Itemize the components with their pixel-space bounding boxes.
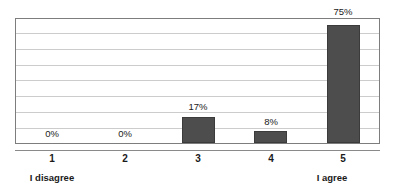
gridline-50 (16, 65, 379, 66)
gridline-40 (16, 80, 379, 81)
bar-slot-3 (182, 117, 215, 143)
bar-slot-5 (327, 25, 360, 143)
bar-category-3[interactable] (182, 117, 215, 143)
value-label-category-2: 0% (95, 129, 155, 139)
x-tick-label-5: 5 (313, 153, 373, 165)
x-tick-label-4: 4 (241, 153, 301, 165)
gridline-60 (16, 49, 379, 50)
bar-chart-figure: 0% 0% 17% 8% 75% 1 2 3 4 5 I disagree I … (0, 0, 398, 194)
scale-anchor-low: I disagree (0, 172, 112, 184)
value-label-category-3: 17% (168, 102, 228, 112)
x-tick-label-2: 2 (95, 153, 155, 165)
gridline-20 (16, 112, 379, 113)
plot-area (15, 18, 380, 144)
x-tick-label-1: 1 (22, 153, 82, 165)
scale-anchor-high: I agree (272, 172, 392, 184)
value-label-category-1: 0% (22, 129, 82, 139)
x-tick-label-3: 3 (168, 153, 228, 165)
gridline-30 (16, 96, 379, 97)
value-label-category-4: 8% (241, 117, 301, 127)
bar-slot-4 (254, 131, 287, 143)
gridline-70 (16, 33, 379, 34)
value-label-category-5: 75% (313, 7, 373, 17)
bar-category-5[interactable] (327, 25, 360, 143)
bar-category-4[interactable] (254, 131, 287, 143)
x-axis-line (15, 150, 380, 151)
